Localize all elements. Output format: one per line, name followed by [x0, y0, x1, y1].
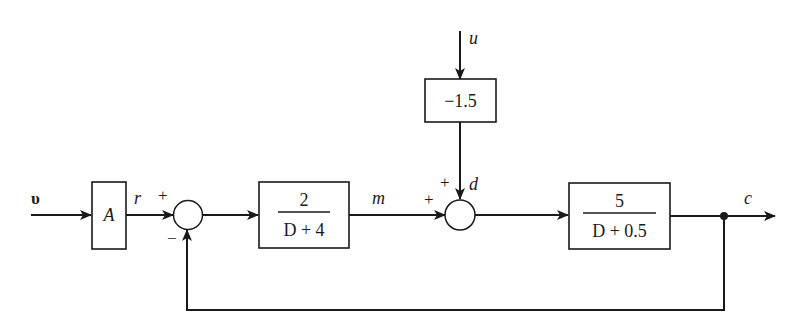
- output-signal-label: c: [744, 188, 752, 208]
- disturbance-sum-top-plus-sign: +: [440, 173, 450, 192]
- disturbance-summing-junction: [445, 200, 475, 230]
- error-sum-minus-sign: −: [167, 229, 177, 248]
- controller-numerator: 2: [300, 190, 309, 210]
- disturbance-signal-label: d: [469, 174, 479, 194]
- gain-a-label: A: [103, 205, 116, 225]
- plant-denominator: D + 0.5: [592, 221, 647, 241]
- error-sum-plus-sign: +: [158, 186, 168, 205]
- input-signal-label: υ: [31, 189, 40, 208]
- error-summing-junction: [174, 201, 203, 230]
- disturbance-sum-left-plus-sign: +: [424, 190, 434, 209]
- disturbance-gain-label: −1.5: [444, 91, 477, 111]
- plant-numerator: 5: [615, 191, 624, 211]
- disturbance-input-label: u: [469, 28, 478, 48]
- manipulated-signal-label: m: [372, 188, 385, 208]
- block-diagram: υ A r + − 2 D + 4 m + u −1.5 d +: [0, 0, 804, 327]
- reference-signal-label: r: [134, 188, 142, 208]
- controller-denominator: D + 4: [283, 220, 324, 240]
